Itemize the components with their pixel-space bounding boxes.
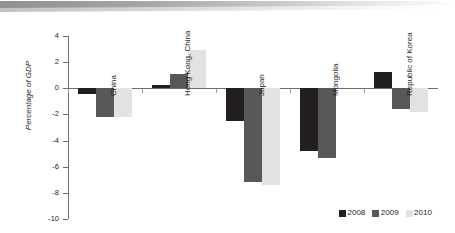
bar-2008-hong-kong-china: [152, 85, 170, 88]
category-label: Japan: [257, 74, 266, 96]
y-tick-label: 4: [33, 32, 59, 40]
legend-label: 2009: [381, 209, 399, 217]
y-axis-title: Percentage of GDP: [24, 36, 33, 156]
legend-item-2009[interactable]: 2009: [372, 209, 398, 217]
y-tick-label: -6: [33, 163, 59, 171]
bar-2008-japan: [226, 88, 244, 121]
y-tick-label: -4: [33, 137, 59, 145]
y-tick-label: -2: [33, 110, 59, 118]
y-tick-label: -8: [33, 189, 59, 197]
bar-2008-republic-of-korea: [374, 72, 392, 88]
legend-item-2008[interactable]: 2008: [339, 209, 365, 217]
y-tick-mark: [63, 219, 68, 220]
legend-swatch-icon: [339, 210, 346, 217]
plot-area: [68, 36, 438, 219]
legend-swatch-icon: [372, 210, 379, 217]
chart-legend: 200820092010: [339, 209, 432, 217]
bar-2010-japan: [262, 88, 280, 185]
decorative-header-band: [0, 0, 455, 13]
bar-2008-mongolia: [300, 88, 318, 151]
category-label: Mongolia: [331, 64, 340, 96]
legend-swatch-icon: [406, 210, 413, 217]
bar-2008-china: [78, 88, 96, 93]
legend-label: 2008: [348, 209, 366, 217]
y-tick-label: 2: [33, 58, 59, 66]
category-label: Hong Kong, China: [183, 31, 192, 96]
bar-chart: Percentage of GDP 420-2-4-6-8-10 ChinaHo…: [0, 13, 455, 233]
y-tick-label: -10: [33, 215, 59, 223]
bar-2009-mongolia: [318, 88, 336, 157]
category-label: Republic of Korea: [405, 33, 414, 97]
category-label: China: [109, 75, 118, 96]
legend-label: 2010: [414, 209, 432, 217]
bar-2009-japan: [244, 88, 262, 182]
legend-item-2010[interactable]: 2010: [406, 209, 432, 217]
y-tick-label: 0: [33, 84, 59, 92]
